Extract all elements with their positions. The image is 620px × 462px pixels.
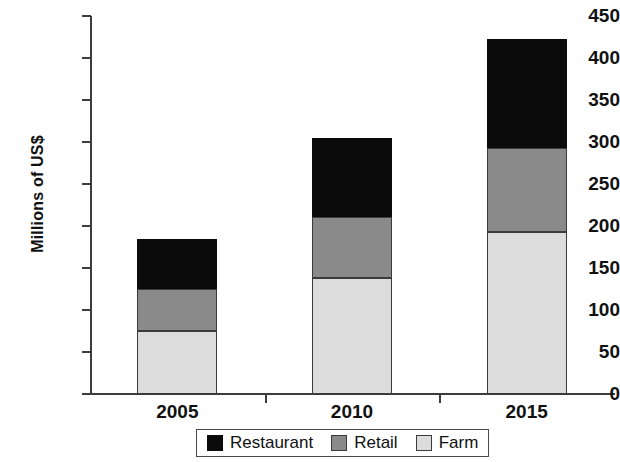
x-axis-tick-label: 2005 [117,401,237,423]
bar-segment-retail-2010 [312,217,392,278]
bar-group-2015 [487,16,567,394]
bar-segment-farm-2010 [312,278,392,394]
x-axis-tick-label: 2015 [467,401,587,423]
y-axis-title: Millions of US$ [29,94,47,294]
legend-swatch-retail-icon [331,435,347,451]
legend-swatch-farm-icon [416,435,432,451]
legend-label-farm: Farm [439,433,479,453]
legend-item-restaurant: Restaurant [207,433,313,453]
x-axis-tick-label: 2010 [292,401,412,423]
bar-segment-restaurant-2005 [137,239,217,289]
bar-segment-retail-2005 [137,289,217,331]
bar-group-2010 [312,16,392,394]
x-axis-tick [439,394,441,403]
bar-segment-restaurant-2010 [312,138,392,217]
bar-segment-farm-2015 [487,232,567,394]
bar-segment-farm-2005 [137,331,217,394]
legend-item-farm: Farm [416,433,479,453]
plot-area [90,16,614,394]
chart-legend: RestaurantRetailFarm [196,429,489,457]
legend-label-restaurant: Restaurant [230,433,313,453]
stacked-bar-chart: Millions of US$ 450400350300250200150100… [0,0,620,462]
legend-item-retail: Retail [331,433,397,453]
bar-segment-restaurant-2015 [487,39,567,148]
legend-label-retail: Retail [354,433,397,453]
bar-group-2005 [137,16,217,394]
bar-segment-retail-2015 [487,148,567,232]
x-axis-tick [265,394,267,403]
legend-swatch-restaurant-icon [207,435,223,451]
